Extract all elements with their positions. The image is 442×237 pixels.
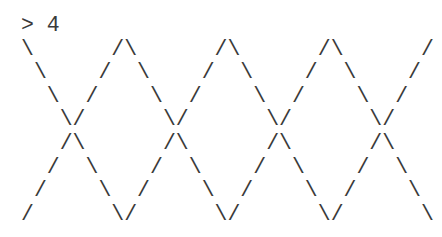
zigzag-row-1: \ /\ /\ /\ / bbox=[21, 38, 434, 62]
terminal-output: > 4\ /\ /\ /\ / \ / \ / \ / \ / \ / \ / … bbox=[21, 14, 434, 226]
zigzag-row-5: /\ /\ /\ /\ bbox=[21, 132, 434, 156]
zigzag-row-4: \/ \/ \/ \/ bbox=[21, 108, 434, 132]
zigzag-row-3: \ / \ / \ / \ / bbox=[21, 85, 434, 109]
zigzag-row-6: / \ / \ / \ / \ bbox=[21, 156, 434, 180]
zigzag-row-2: \ / \ / \ / \ / bbox=[21, 61, 434, 85]
prompt-input-line: > 4 bbox=[21, 14, 434, 38]
zigzag-row-7: / \ / \ / \ / \ bbox=[21, 179, 434, 203]
zigzag-row-8: / \/ \/ \/ \ bbox=[21, 203, 434, 227]
